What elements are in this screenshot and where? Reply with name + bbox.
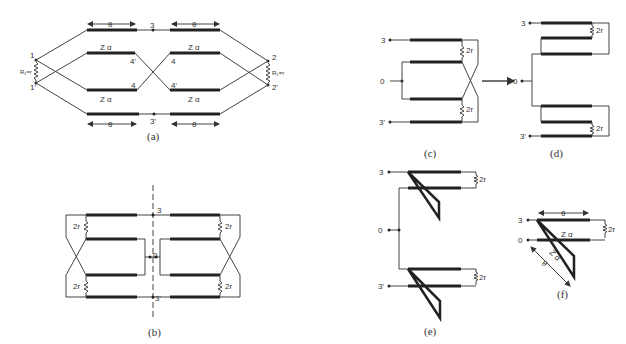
svg-text:θ: θ [561, 209, 566, 218]
svg-text:2r: 2r [608, 225, 615, 234]
svg-text:3: 3 [157, 206, 162, 215]
svg-text:2r: 2r [479, 175, 486, 184]
svg-text:0: 0 [153, 251, 158, 260]
svg-text:Z α: Z α [188, 43, 200, 52]
svg-text:Z α: Z α [100, 43, 112, 52]
svg-text:Z α: Z α [561, 230, 573, 239]
svg-text:2r: 2r [73, 222, 80, 231]
node-3p-label: 3' [150, 117, 156, 126]
svg-text:4: 4 [171, 57, 176, 66]
caption-c: (c) [424, 147, 437, 160]
svg-text:3: 3 [521, 19, 526, 28]
svg-text:4': 4' [130, 57, 136, 66]
svg-text:2: 2 [272, 53, 277, 62]
svg-text:2': 2' [272, 83, 278, 92]
svg-text:Z α: Z α [100, 95, 112, 104]
panel-f: θ 3 0 Z α 2r θ Z α (f) [518, 209, 615, 301]
svg-text:3: 3 [379, 168, 384, 177]
caption-e: (e) [424, 325, 437, 338]
svg-text:1: 1 [30, 51, 35, 60]
svg-text:3': 3' [520, 132, 526, 141]
svg-text:θ: θ [192, 120, 197, 129]
svg-text:3': 3' [155, 294, 161, 303]
svg-text:2r: 2r [466, 46, 473, 55]
svg-text:2r: 2r [466, 105, 473, 114]
svg-text:Z α: Z α [548, 248, 563, 263]
caption-b: (b) [148, 326, 161, 339]
caption-f: (f) [557, 288, 568, 301]
svg-text:0: 0 [518, 236, 523, 245]
svg-text:0: 0 [380, 77, 385, 86]
panel-b: 3 3' 0 2r 2r [66, 185, 240, 339]
panel-d: 3 2r 0 2r 3' (d) [513, 19, 609, 160]
svg-text:R₂=r: R₂=r [272, 70, 284, 76]
svg-text:2r: 2r [73, 282, 80, 291]
svg-text:4': 4' [171, 81, 177, 90]
svg-text:3: 3 [518, 216, 523, 225]
svg-text:θ: θ [192, 20, 197, 29]
caption-a: (a) [147, 130, 160, 143]
panel-e: 3 2r 0 2r 3' (e) [378, 168, 486, 338]
svg-text:R₁=r: R₁=r [20, 69, 32, 75]
svg-text:2r: 2r [596, 124, 603, 133]
panel-c: 3 3' 0 2r 2r (c) [379, 36, 514, 160]
svg-text:2r: 2r [225, 282, 232, 291]
svg-text:2r: 2r [225, 222, 232, 231]
circuit-figure: θ θ 3 Z α Z α 4' 4 4 4' Z α Z α θ θ 3' [0, 0, 626, 344]
svg-text:2r: 2r [479, 273, 486, 282]
svg-text:θ: θ [108, 120, 113, 129]
svg-text:1': 1' [30, 83, 36, 92]
caption-d: (d) [550, 147, 563, 160]
theta-label: θ [108, 20, 113, 29]
svg-text:3: 3 [381, 36, 386, 45]
panel-a: θ θ 3 Z α Z α 4' 4 4 4' Z α Z α θ θ 3' [20, 20, 284, 143]
svg-text:0: 0 [513, 77, 518, 86]
svg-text:4: 4 [131, 81, 136, 90]
svg-text:Z α: Z α [188, 95, 200, 104]
svg-text:3': 3' [379, 118, 385, 127]
svg-text:0: 0 [378, 226, 383, 235]
svg-text:2r: 2r [596, 26, 603, 35]
svg-text:3': 3' [378, 282, 384, 291]
